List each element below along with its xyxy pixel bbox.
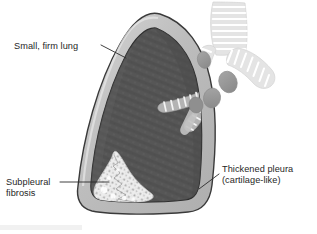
label-thickened-pleura-line2: (cartilage-like) <box>222 175 281 185</box>
trachea-body <box>211 2 247 55</box>
trachea <box>211 2 247 55</box>
label-small-firm-lung: Small, firm lung <box>14 41 78 51</box>
scan-artifact-bar <box>0 225 82 230</box>
label-thickened-pleura-line1: Thickened pleura <box>222 164 294 174</box>
illustration-canvas: Small, firm lung Subpleural fibrosis Thi… <box>0 0 317 234</box>
lymph-node-2 <box>216 69 240 96</box>
label-subpleural-fibrosis-line1: Subpleural <box>6 177 50 187</box>
label-subpleural-fibrosis-line2: fibrosis <box>6 188 36 198</box>
lung-fibrosis-figure: Small, firm lung Subpleural fibrosis Thi… <box>0 0 317 234</box>
